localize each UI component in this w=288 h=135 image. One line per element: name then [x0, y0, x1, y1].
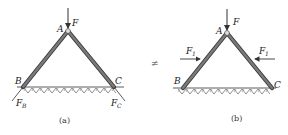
- label-fb-sub: B: [21, 102, 27, 109]
- label-f: F: [71, 18, 79, 28]
- caption-a: (a): [59, 116, 70, 125]
- member-ac-b-fill: [227, 33, 272, 88]
- label-c: C: [115, 76, 122, 86]
- label-a: A: [56, 24, 64, 34]
- ground-hatch-ticks-a: [24, 88, 114, 91]
- label-b-b: B: [173, 76, 181, 86]
- label-c-b: C: [274, 80, 281, 90]
- hinge-b: [225, 31, 230, 36]
- not-equal-symbol: ≠: [151, 58, 159, 68]
- caption-b: (b): [231, 114, 242, 123]
- figure-a: A F B C F B F C (a): [12, 8, 125, 125]
- member-ab-b-fill: [183, 33, 227, 88]
- label-f-b: F: [232, 17, 240, 27]
- ground-hatch-a: [24, 88, 116, 93]
- member-ac-a-fill: [68, 31, 114, 87]
- label-f1-left-sub: 1: [192, 50, 196, 57]
- label-b: B: [14, 76, 22, 86]
- member-ab-a-fill: [23, 31, 68, 87]
- ground-hatch-b: [178, 89, 270, 94]
- label-fc-sub: C: [117, 102, 122, 109]
- label-a-b: A: [215, 26, 223, 36]
- label-f1-right-sub: 1: [265, 50, 269, 57]
- ground-hatch-ticks-b: [178, 89, 268, 92]
- diagram-canvas: A F B C F B F C (a) ≠: [0, 0, 288, 135]
- figure-b: A F B C F 1 F 1 (b): [173, 9, 281, 123]
- hinge-a: [66, 29, 71, 34]
